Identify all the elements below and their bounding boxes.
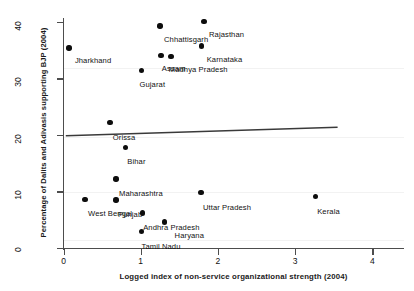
data-point [113,176,118,181]
data-point-label: Maharashtra [119,189,163,198]
data-point [123,145,128,150]
data-point [140,210,145,215]
data-point-label: Karnataka [207,55,243,64]
data-point-label: Rajasthan [209,30,244,39]
data-point [162,219,167,224]
data-point [107,120,112,125]
data-point-label: Gujarat [140,80,166,89]
scatter-plot-figure: 01020304001234 Percentage of Dalits and … [0,0,414,291]
data-point-label: Bihar [127,157,145,166]
data-point-label: Kerala [317,207,340,216]
data-point-label: Jharkhand [75,56,111,65]
data-point-label: Orissa [113,133,136,142]
data-point [168,54,173,59]
data-point [66,45,71,50]
data-point [82,197,87,202]
data-point-label: Punjab [118,210,142,219]
data-point-label: Haryana [175,231,204,240]
data-point [313,194,318,199]
data-point [201,19,206,24]
data-point [113,197,118,202]
plot-area: JharkhandChhattisgarhRajasthanKarnatakaA… [0,0,414,291]
data-point [157,23,162,28]
data-point [158,53,163,58]
data-point-label: Tamil Nadu [142,242,181,251]
data-point-label: Madhya Pradesh [169,65,228,74]
data-point [198,190,203,195]
data-point-label: Uttar Pradesh [203,203,251,212]
